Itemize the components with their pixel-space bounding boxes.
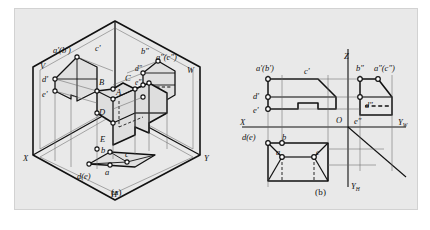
label-d-prime: d' xyxy=(42,74,48,84)
label-top-a: a xyxy=(105,167,109,177)
figure-root: a'(b') c' V d' e' b″ a″(c″) W d″ e″ B A … xyxy=(0,0,430,230)
label-top-b: b xyxy=(101,145,105,155)
label-axis-y: Y xyxy=(204,153,210,163)
label-plane-w: W xyxy=(187,65,195,75)
label-plane-v: V xyxy=(40,61,47,71)
figure-plate: a'(b') c' V d' e' b″ a″(c″) W d″ e″ B A … xyxy=(14,8,418,210)
panel-orthographic: a'(b') c' Z b″ a″(c″) d' e' d″ e″ X O YW… xyxy=(220,9,417,209)
label-d-double-prime: d″ xyxy=(135,64,143,73)
label-a-c-double-prime: a″(c″) xyxy=(374,63,395,73)
label-vertex-a: A xyxy=(115,87,122,97)
label-a-c-double-prime: a″(c″) xyxy=(156,52,177,62)
label-c-prime: c' xyxy=(95,43,101,53)
label-e-double-prime: e″ xyxy=(354,116,362,126)
label-vertex-c: C xyxy=(125,73,131,83)
label-top-c: c xyxy=(316,147,320,157)
label-d-prime: d' xyxy=(253,91,259,101)
label-c-prime: c' xyxy=(304,66,310,76)
label-top-d-e: d(e) xyxy=(242,132,256,142)
label-top-b: b xyxy=(282,132,286,142)
label-origin-o: O xyxy=(336,115,342,125)
label-e-prime: e' xyxy=(253,105,259,115)
front-view-outline xyxy=(268,79,336,109)
label-vertex-b: B xyxy=(99,77,104,87)
panel-isometric: a'(b') c' V d' e' b″ a″(c″) W d″ e″ B A … xyxy=(15,9,220,209)
label-axis-yw: YW xyxy=(398,117,408,128)
label-e-prime: e' xyxy=(42,89,48,99)
label-b-double-prime: b″ xyxy=(141,46,149,56)
label-d-double-prime: d″ xyxy=(365,100,373,110)
label-axis-x: X xyxy=(22,153,29,163)
label-top-d-e: d(e) xyxy=(77,171,91,181)
label-a-prime-b-prime: a'(b') xyxy=(53,45,71,55)
label-top-c: c xyxy=(125,149,129,159)
label-axis-x: X xyxy=(239,117,246,127)
caption-b: (b) xyxy=(315,187,326,197)
label-vertex-d: D xyxy=(98,107,106,117)
label-axis-yh: YH xyxy=(351,181,361,192)
label-a-prime-b-prime: a'(b') xyxy=(256,63,274,73)
top-view-hidden-lines xyxy=(282,157,314,181)
vertex-markers xyxy=(266,77,381,160)
label-vertex-e: E xyxy=(99,134,106,144)
label-b-double-prime: b″ xyxy=(356,63,364,73)
caption-a: (a) xyxy=(111,187,122,197)
label-axis-z: Z xyxy=(344,51,349,61)
label-e-double-prime: e″ xyxy=(135,78,142,87)
label-top-a: a xyxy=(276,147,280,157)
